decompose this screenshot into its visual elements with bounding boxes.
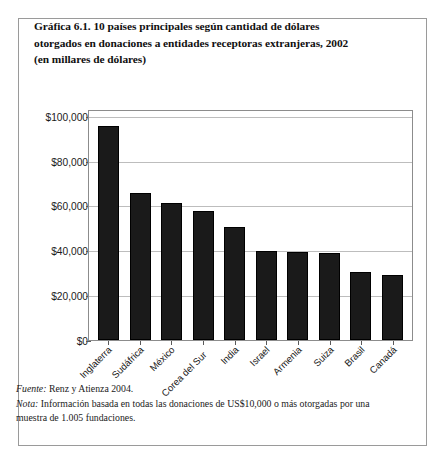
bar xyxy=(161,203,182,340)
x-axis-tick-mark xyxy=(361,341,362,345)
note-label: Nota: xyxy=(16,398,38,409)
x-axis-tick-mark xyxy=(108,341,109,345)
x-axis-tick-mark xyxy=(235,341,236,345)
bar xyxy=(256,251,277,340)
x-axis-tick-label: India xyxy=(218,344,240,366)
bar xyxy=(130,193,151,340)
x-axis-tick-label: Israel xyxy=(248,344,272,368)
y-axis-tick-label: $60,000 xyxy=(22,201,88,212)
source-note: Fuente: Renz y Atienza 2004. xyxy=(16,382,401,397)
x-axis-label: India xyxy=(218,344,240,366)
y-axis-tick-label: $0 xyxy=(22,336,88,347)
x-axis-tick-label: Brasil xyxy=(342,344,367,369)
source-label: Fuente: xyxy=(16,383,46,394)
plot-area xyxy=(88,110,413,341)
x-axis-tick-mark xyxy=(203,341,204,345)
note-text: Información basada en todas las donacion… xyxy=(16,398,370,424)
x-axis-tick-mark xyxy=(266,341,267,345)
x-axis-label: Canadá xyxy=(367,344,399,376)
x-axis-tick-label: Canadá xyxy=(367,344,399,376)
bar xyxy=(382,275,403,340)
x-axis-tick-label: Suiza xyxy=(311,344,336,369)
y-axis-tick-label: $100,000 xyxy=(22,111,88,122)
x-axis-tick-mark xyxy=(140,341,141,345)
x-axis-label: Suiza xyxy=(311,344,336,369)
x-axis-tick-mark xyxy=(171,341,172,345)
bar xyxy=(98,126,119,340)
source-text: Renz y Atienza 2004. xyxy=(49,383,133,394)
x-axis-tick-label: Sudáfrica xyxy=(109,344,145,380)
bar xyxy=(224,227,245,340)
bar xyxy=(350,272,371,340)
figure-notes: Fuente: Renz y Atienza 2004. Nota: Infor… xyxy=(16,382,401,426)
x-axis-tick-mark xyxy=(330,341,331,345)
y-axis-tick-label: $20,000 xyxy=(22,291,88,302)
x-axis-tick-mark xyxy=(393,341,394,345)
y-axis-tick-label: $40,000 xyxy=(22,246,88,257)
x-axis-label: Sudáfrica xyxy=(109,344,145,380)
y-axis: $0$20,000$40,000$60,000$80,000$100,000 xyxy=(18,110,88,341)
x-axis-label: Armenia xyxy=(271,344,304,377)
x-axis-tick-mark xyxy=(298,341,299,345)
data-note: Nota: Información basada en todas las do… xyxy=(16,397,401,426)
bar xyxy=(193,211,214,340)
x-axis-tick-label: Armenia xyxy=(271,344,304,377)
x-axis-label: Israel xyxy=(248,344,272,368)
x-axis-label: Inglaterra xyxy=(77,344,113,380)
x-axis-tick-label: Inglaterra xyxy=(77,344,113,380)
bar xyxy=(287,252,308,340)
bar-series xyxy=(89,111,412,340)
bar xyxy=(319,253,340,340)
y-axis-tick-label: $80,000 xyxy=(22,156,88,167)
x-axis-label: Brasil xyxy=(342,344,367,369)
x-axis-tick-label: México xyxy=(148,344,177,373)
x-axis-label: México xyxy=(148,344,177,373)
